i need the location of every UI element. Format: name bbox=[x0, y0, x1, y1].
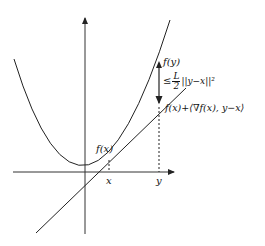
fraction-l-over-2: L2 bbox=[172, 72, 180, 91]
label-quadratic-bound: ≤L2||y−x||² bbox=[163, 72, 215, 91]
label-f-y: f(y) bbox=[163, 57, 180, 67]
norm-text: ||y−x||² bbox=[181, 76, 214, 86]
gap-arrow-head-up bbox=[156, 61, 162, 68]
diagram-canvas: f(y) ≤L2||y−x||² f(x)+⟨∇f(x), y−x⟩ f(x) … bbox=[0, 0, 265, 246]
label-linear-bound: f(x)+⟨∇f(x), y−x⟩ bbox=[165, 103, 244, 113]
function-curve bbox=[14, 20, 170, 166]
tick-label-y: y bbox=[156, 176, 162, 186]
tick-label-x: x bbox=[106, 176, 112, 186]
label-f-x: f(x) bbox=[96, 144, 113, 154]
diagram-graphics bbox=[0, 0, 265, 246]
tangent-line bbox=[36, 88, 186, 233]
leq-symbol: ≤ bbox=[163, 75, 171, 86]
